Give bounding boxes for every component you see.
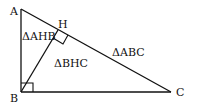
vertex-label-b: B — [10, 92, 18, 105]
side-ac — [21, 9, 171, 92]
triangle-label-ahb: ΔAHB — [22, 30, 56, 43]
triangle-label-abc: ΔABC — [112, 46, 145, 59]
vertex-label-c: C — [176, 86, 184, 99]
vertex-label-a: A — [9, 5, 19, 18]
vertex-label-h: H — [58, 18, 68, 31]
right-angle-marker-b — [21, 83, 33, 92]
triangle-diagram: A H B C ΔAHB ΔBHC ΔABC — [0, 0, 197, 109]
triangle-label-bhc: ΔBHC — [54, 57, 88, 70]
